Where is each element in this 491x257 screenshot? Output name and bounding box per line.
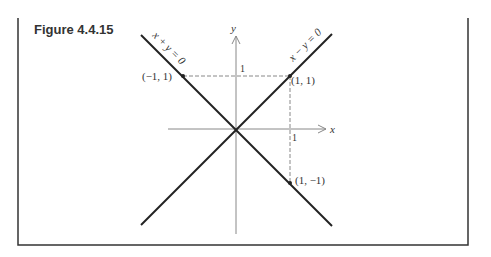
point-neg1-1 — [181, 74, 185, 78]
point-label-neg1-1: (−1, 1) — [142, 70, 172, 83]
point-1-neg1 — [288, 181, 292, 185]
figure-caption: Figure 4.4.15 — [34, 22, 113, 37]
figure-frame — [18, 18, 468, 245]
y-tick-1: 1 — [240, 63, 245, 74]
x-tick-1: 1 — [292, 132, 297, 143]
x-axis-label: x — [329, 123, 335, 135]
point-label-1-neg1: (1, −1) — [295, 174, 325, 187]
figure-canvas: x y 1 1 x + y = 0 x − y = 0 (−1, 1) (1, … — [0, 0, 491, 257]
line-label-x-plus-y: x + y = 0 — [150, 28, 189, 67]
figure-4-4-15: x y 1 1 x + y = 0 x − y = 0 (−1, 1) (1, … — [0, 0, 491, 257]
line-label-x-minus-y: x − y = 0 — [285, 26, 324, 65]
y-axis-label: y — [230, 22, 236, 34]
point-label-1-1: (1, 1) — [291, 74, 315, 87]
